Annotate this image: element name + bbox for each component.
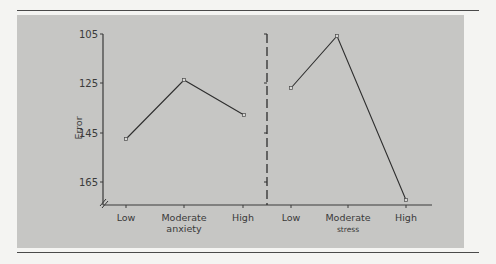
axis-break-icon [100,199,108,208]
y-tick-label-105: 105 [79,29,98,40]
x-label-anxiety-high: High [232,212,254,223]
x-label-anxiety-moderate: Moderate [161,212,206,223]
anxiety-points [125,79,246,141]
stress-line [291,36,406,200]
x-label-stress-high: High [395,212,417,223]
y-tick-label-125: 125 [79,78,98,89]
y-tick-label-165: 165 [79,177,98,188]
y-axis-title: Error [73,116,84,139]
stress-points [290,35,408,202]
x-label-anxiety-low: Low [117,212,136,223]
anxiety-line [126,80,244,139]
x-group-label-stress: stress [337,225,359,234]
x-group-label-anxiety: anxiety [166,223,202,234]
line-chart: 105 125 145 165 Error Low Mod [0,0,496,264]
x-label-stress-moderate: Moderate [325,212,370,223]
x-label-stress-low: Low [282,212,301,223]
